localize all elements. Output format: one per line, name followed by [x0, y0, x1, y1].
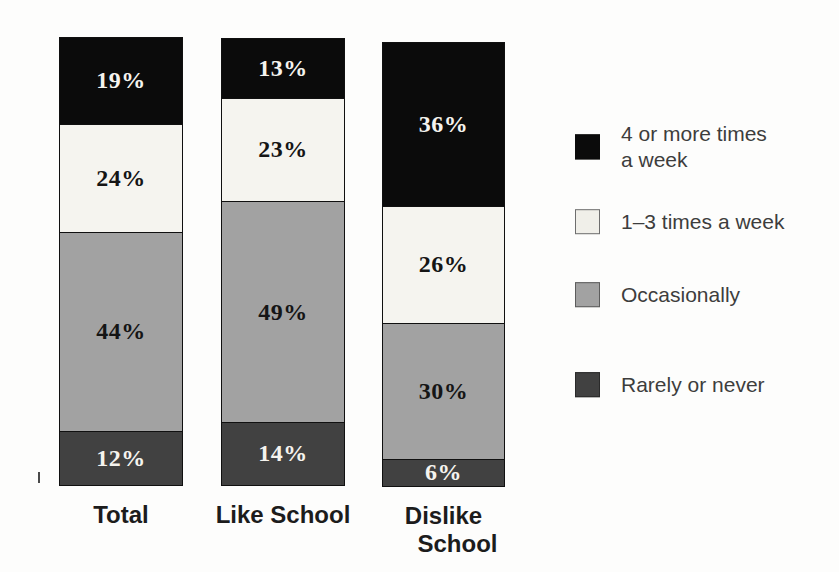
segment-dislike-school-rarely-or-never: 6% [383, 459, 504, 486]
segment-value-label: 24% [96, 165, 146, 192]
segment-dislike-school-4-or-more-times-a-week: 36% [383, 43, 504, 206]
legend-swatch-4-or-more-times-a-week [575, 135, 600, 160]
legend-item-4-or-more-times-a-week: 4 or more timesa week [575, 121, 767, 172]
category-label-line: School [373, 530, 543, 558]
segment-total-1-3-times-a-week: 24% [60, 124, 182, 232]
legend-item-rarely-or-never: Rarely or never [575, 372, 765, 398]
segment-dislike-school-1-3-times-a-week: 26% [383, 206, 504, 324]
segment-value-label: 49% [258, 299, 308, 326]
legend-item-1-3-times-a-week: 1–3 times a week [575, 209, 784, 235]
legend-swatch-occasionally [575, 282, 600, 307]
segment-value-label: 14% [258, 440, 308, 467]
legend-item-occasionally: Occasionally [575, 282, 740, 308]
legend-label: Rarely or never [621, 372, 765, 398]
segment-total-4-or-more-times-a-week: 19% [60, 38, 182, 124]
category-label-line: Like School [198, 501, 368, 529]
segment-total-rarely-or-never: 12% [60, 431, 182, 485]
bar-dislike-school: 36%26%30%6% [382, 42, 505, 487]
segment-like-school-rarely-or-never: 14% [222, 422, 344, 485]
segment-total-occasionally: 44% [60, 232, 182, 431]
segment-like-school-occasionally: 49% [222, 201, 344, 422]
segment-dislike-school-occasionally: 30% [383, 323, 504, 459]
category-label-line: Total [36, 501, 206, 529]
segment-like-school-4-or-more-times-a-week: 13% [222, 39, 344, 98]
category-label-dislike-school: DislikeSchool [359, 502, 529, 557]
legend-swatch-rarely-or-never [575, 372, 600, 397]
bar-total: 19%24%44%12% [59, 37, 183, 486]
category-label-line: Dislike [359, 502, 529, 530]
segment-value-label: 36% [419, 111, 469, 138]
segment-value-label: 12% [96, 445, 146, 472]
category-label-like-school: Like School [198, 501, 368, 529]
segment-value-label: 19% [96, 67, 146, 94]
legend-label: 1–3 times a week [621, 209, 784, 235]
segment-value-label: 23% [258, 136, 308, 163]
bar-like-school: 13%23%49%14% [221, 38, 345, 486]
legend-label: Occasionally [621, 282, 740, 308]
category-label-total: Total [36, 501, 206, 529]
legend-swatch-1-3-times-a-week [575, 209, 600, 234]
segment-value-label: 30% [419, 378, 469, 405]
axis-tick-mark [38, 472, 40, 483]
legend-label: 4 or more timesa week [621, 121, 767, 172]
segment-value-label: 6% [425, 459, 462, 486]
segment-value-label: 13% [258, 55, 308, 82]
segment-value-label: 26% [419, 251, 469, 278]
stacked-bar-chart: 19%24%44%12%Total13%23%49%14%Like School… [0, 0, 839, 572]
segment-like-school-1-3-times-a-week: 23% [222, 98, 344, 202]
segment-value-label: 44% [96, 318, 146, 345]
